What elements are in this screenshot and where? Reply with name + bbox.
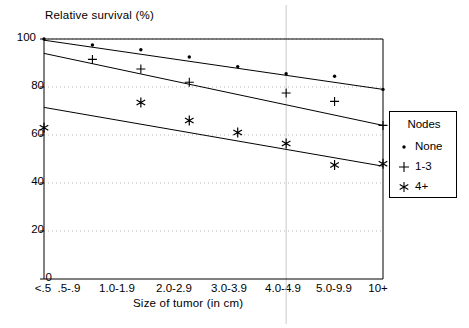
data-point-4+-<.5 xyxy=(40,123,49,133)
legend-item-none[interactable]: None xyxy=(398,138,458,156)
data-point-4+-2.0-2.9 xyxy=(185,116,194,126)
data-point-4+-4.0-4.9 xyxy=(282,138,291,148)
data-point-None-10+ xyxy=(381,88,384,91)
data-point-None-.5-.9 xyxy=(91,43,94,46)
fit-line-None xyxy=(44,40,383,89)
data-point-1-3-10+ xyxy=(379,121,388,130)
data-point-None-<.5 xyxy=(42,37,45,40)
legend-label-1-3: 1-3 xyxy=(415,160,432,172)
data-point-None-2.0-2.9 xyxy=(188,55,191,58)
legend-label-4plus: 4+ xyxy=(415,180,428,192)
data-point-None-3.0-3.9 xyxy=(236,65,239,68)
data-point-None-5.0-9.9 xyxy=(333,75,336,78)
data-point-4+-3.0-3.9 xyxy=(233,128,242,138)
fit-line-4+ xyxy=(44,107,383,166)
legend-title: Nodes xyxy=(390,118,458,130)
data-point-None-1.0-1.9 xyxy=(139,48,142,51)
data-point-1-3-4.0-4.9 xyxy=(282,89,291,98)
legend-item-1-3[interactable]: 1-3 xyxy=(398,158,458,176)
data-point-1-3-1.0-1.9 xyxy=(136,65,145,74)
legend-label-none: None xyxy=(415,140,443,152)
data-point-4+-10+ xyxy=(379,159,388,169)
asterisk-marker-icon xyxy=(398,178,412,196)
plus-marker-icon xyxy=(398,158,412,176)
fit-line-1-3 xyxy=(44,53,383,125)
legend: Nodes None 1-3 4+ xyxy=(389,111,457,198)
data-point-None-4.0-4.9 xyxy=(284,72,287,75)
survival-chart: Relative survival (%) Size of tumor (in … xyxy=(0,0,469,328)
legend-item-4plus[interactable]: 4+ xyxy=(398,178,458,196)
dot-marker-icon xyxy=(398,138,412,156)
data-point-4+-5.0-9.9 xyxy=(330,160,339,170)
data-point-4+-1.0-1.9 xyxy=(137,98,146,108)
data-point-1-3-5.0-9.9 xyxy=(330,97,339,106)
